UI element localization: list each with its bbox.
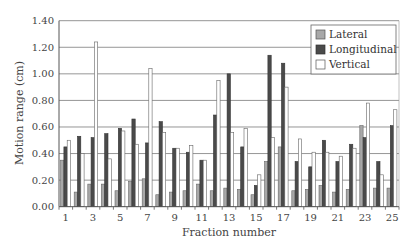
bar-lateral [101, 184, 104, 207]
motion-range-chart: 0.000.200.400.600.801.001.201.40 1357911… [0, 0, 412, 244]
bar-lateral [156, 195, 159, 207]
legend-label-lateral: Lateral [329, 28, 368, 40]
bar-vertical [244, 128, 247, 206]
bar-lateral [278, 147, 281, 207]
bar-lateral [237, 189, 240, 206]
bar-lateral [197, 184, 200, 207]
x-tick-label: 17 [277, 212, 290, 223]
bar-lateral [319, 185, 322, 206]
x-tick-label: 23 [359, 212, 372, 223]
bar-lateral [265, 162, 268, 207]
bar-lateral [74, 192, 77, 207]
x-tick-label: 1 [63, 212, 69, 223]
bar-longitudinal [241, 147, 244, 207]
bar-longitudinal [227, 74, 230, 207]
bar-longitudinal [118, 128, 121, 206]
bar-lateral [183, 191, 186, 207]
bar-vertical [203, 160, 206, 207]
bar-longitudinal [282, 63, 285, 206]
y-tick-label: 1.20 [32, 42, 54, 53]
bar-longitudinal [390, 126, 393, 207]
bar-vertical [258, 175, 261, 207]
y-tick-label: 1.40 [32, 15, 54, 26]
bar-vertical [162, 132, 165, 206]
bar-vertical [312, 152, 315, 206]
bar-longitudinal [363, 138, 366, 207]
x-tick-label: 11 [195, 212, 208, 223]
bar-vertical [298, 139, 301, 207]
legend-swatch-vertical [316, 60, 325, 69]
bar-longitudinal [105, 134, 108, 207]
bar-lateral [115, 191, 118, 207]
x-tick-label: 5 [117, 212, 123, 223]
bar-longitudinal [377, 162, 380, 207]
bar-longitudinal [78, 136, 81, 206]
legend-label-longitudinal: Longitudinal [329, 43, 397, 55]
legend-swatch-longitudinal [316, 45, 325, 54]
bar-lateral [333, 192, 336, 207]
bar-longitudinal [200, 160, 203, 207]
bar-vertical [285, 87, 288, 207]
bar-lateral [88, 184, 91, 207]
bar-longitudinal [186, 152, 189, 206]
bar-vertical [394, 110, 397, 207]
legend-swatch-lateral [316, 30, 325, 39]
bar-longitudinal [336, 162, 339, 207]
y-tick-label: 0.40 [32, 148, 54, 159]
bar-lateral [360, 126, 363, 207]
bar-lateral [142, 179, 145, 207]
bar-lateral [61, 160, 64, 207]
bar-lateral [169, 192, 172, 207]
bar-lateral [210, 191, 213, 207]
x-tick-label: 7 [144, 212, 150, 223]
y-tick-label: 0.20 [32, 175, 54, 186]
bar-vertical [67, 140, 70, 206]
bar-vertical [135, 144, 138, 206]
bar-longitudinal [64, 147, 67, 207]
bar-lateral [305, 189, 308, 206]
bar-vertical [108, 159, 111, 207]
x-tick-label: 21 [331, 212, 344, 223]
x-tick-label: 25 [386, 212, 399, 223]
x-axis-title: Fraction number [182, 226, 277, 239]
bar-lateral [346, 189, 349, 206]
bar-vertical [149, 69, 152, 207]
bar-vertical [380, 175, 383, 207]
bar-longitudinal [159, 122, 162, 207]
bar-vertical [190, 146, 193, 207]
bar-vertical [271, 138, 274, 207]
x-tick-label: 19 [304, 212, 317, 223]
y-tick-labels: 0.000.200.400.600.801.001.201.40 [32, 15, 54, 212]
bar-lateral [373, 188, 376, 207]
x-tick-labels: 135791113151719212325 [63, 212, 399, 223]
bar-vertical [366, 103, 369, 207]
bar-longitudinal [322, 140, 325, 206]
bar-lateral [224, 188, 227, 207]
x-tick-label: 3 [90, 212, 96, 223]
bar-lateral [251, 195, 254, 207]
y-tick-label: 0.00 [32, 201, 54, 212]
bar-longitudinal [309, 167, 312, 207]
bar-longitudinal [146, 143, 149, 207]
x-tick-label: 15 [250, 212, 263, 223]
bar-longitudinal [350, 144, 353, 206]
bar-longitudinal [91, 138, 94, 207]
bar-longitudinal [254, 185, 257, 206]
bar-lateral [387, 188, 390, 207]
legend-label-vertical: Vertical [328, 58, 371, 70]
x-tick-label: 9 [171, 212, 177, 223]
bar-longitudinal [132, 119, 135, 207]
bar-longitudinal [173, 148, 176, 206]
bar-vertical [122, 131, 125, 207]
bar-lateral [129, 181, 132, 206]
bar-vertical [326, 152, 329, 206]
bar-vertical [217, 80, 220, 206]
bar-vertical [94, 42, 97, 207]
y-axis-title: Motion range (cm) [13, 61, 26, 165]
bar-lateral [292, 191, 295, 207]
legend: Lateral Longitudinal Vertical [311, 25, 397, 74]
bar-vertical [339, 156, 342, 206]
bar-longitudinal [214, 115, 217, 207]
bar-vertical [353, 148, 356, 206]
bar-longitudinal [295, 162, 298, 207]
